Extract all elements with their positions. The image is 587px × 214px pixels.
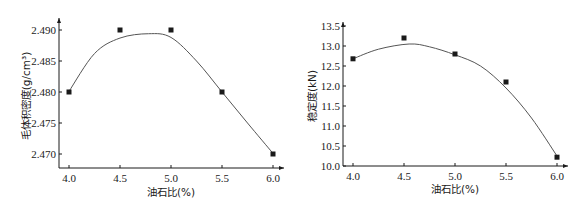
x-axis-title: 油石比(%) [431,183,479,195]
y-tick-label: 10.0 [321,160,341,172]
y-tick-label: 2.475 [31,117,56,129]
data-point-marker [169,28,174,33]
y-tick-label: 11.5 [321,100,340,112]
y-tick-label: 12.0 [321,80,341,92]
x-tick-label: 4.5 [113,172,127,184]
x-axis-arrow-icon [563,164,568,168]
x-tick-label: 4.0 [346,170,360,182]
y-axis-arrow-icon [57,18,61,23]
x-tick-label: 5.0 [164,172,178,184]
x-tick-label: 5.5 [499,170,513,182]
data-point-marker [271,152,276,157]
y-tick-label: 13.5 [321,20,341,32]
y-axis-title: 稳定度(kN) [306,70,318,122]
x-tick-label: 5.0 [448,170,462,182]
data-point-marker [220,90,225,95]
data-point-marker [67,90,72,95]
data-point-marker [504,80,509,85]
y-axis-title: 毛体积密度(g/cm³) [20,52,32,141]
x-axis-arrow-icon [279,166,284,170]
y-tick-label: 11.0 [321,120,340,132]
y-tick-label: 12.5 [321,60,341,72]
y-tick-label: 10.5 [321,140,341,152]
x-tick-label: 5.5 [215,172,229,184]
y-tick-label: 2.490 [31,24,56,36]
fit-curve [69,34,273,154]
charts-figure: 4.04.55.05.56.02.4702.4752.4802.4852.490… [0,0,587,214]
chart-bulk-density: 4.04.55.05.56.02.4702.4752.4802.4852.490… [20,18,284,198]
y-tick-label: 2.480 [31,86,56,98]
data-point-marker [555,155,560,160]
data-point-marker [118,28,123,33]
chart-stability: 4.04.55.05.56.010.010.511.011.512.012.51… [306,20,568,195]
fit-curve [353,44,557,156]
y-tick-label: 13.0 [321,40,341,52]
y-tick-label: 2.485 [31,55,56,67]
data-point-marker [351,56,356,61]
x-tick-label: 6.0 [550,170,564,182]
x-axis-title: 油石比(%) [147,186,195,198]
y-tick-label: 2.470 [31,148,56,160]
x-tick-label: 4.5 [397,170,411,182]
data-point-marker [402,36,407,41]
x-tick-label: 4.0 [62,172,76,184]
x-tick-label: 6.0 [266,172,280,184]
data-point-marker [453,52,458,57]
